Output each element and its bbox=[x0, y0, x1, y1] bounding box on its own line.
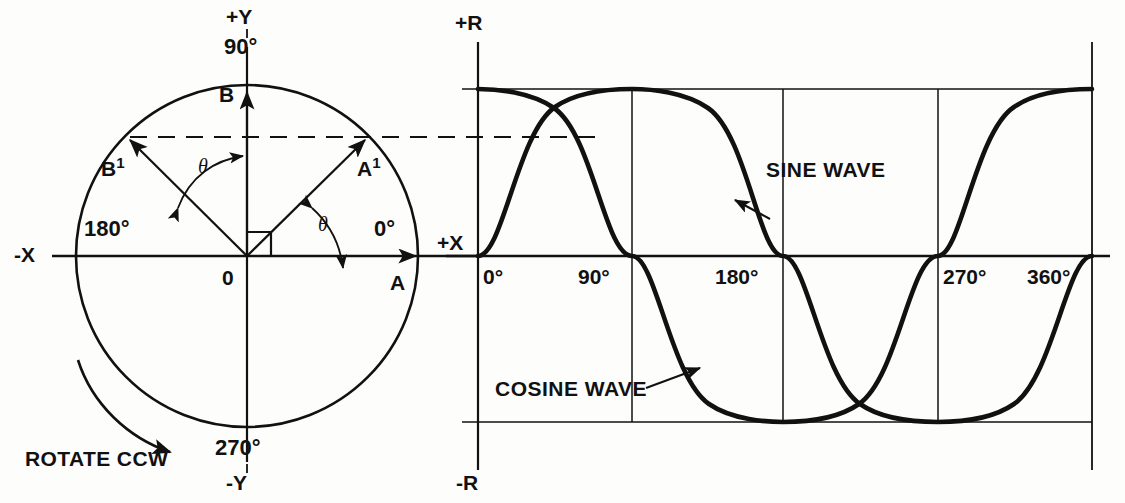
label-minus-y: -Y bbox=[226, 472, 247, 493]
label-rotate-ccw: ROTATE CCW bbox=[25, 448, 168, 469]
xtick-270: 270° bbox=[943, 266, 986, 287]
xtick-90: 90° bbox=[578, 266, 610, 287]
label-point-a-prime: A1 bbox=[357, 155, 381, 179]
circle-group bbox=[52, 29, 478, 473]
vector-b-prime bbox=[130, 140, 247, 256]
label-plus-y: +Y bbox=[226, 6, 252, 27]
label-plus-r: +R bbox=[455, 12, 482, 33]
vector-a-prime bbox=[247, 140, 365, 256]
theta-symbol-right: θ bbox=[318, 213, 328, 236]
theta-arc-left bbox=[178, 156, 243, 208]
label-point-b: B bbox=[219, 84, 234, 105]
label-sine-wave: SINE WAVE bbox=[766, 159, 886, 180]
xtick-180: 180° bbox=[715, 266, 758, 287]
label-90-deg: 90° bbox=[224, 36, 257, 58]
label-point-a: A bbox=[390, 272, 405, 293]
label-cosine-wave: COSINE WAVE bbox=[495, 378, 647, 399]
a-prime-base: A bbox=[357, 157, 372, 180]
label-180-deg: 180° bbox=[84, 218, 130, 240]
b-prime-superscript: 1 bbox=[116, 154, 124, 171]
label-point-b-prime: B1 bbox=[101, 155, 125, 179]
label-origin: 0 bbox=[222, 267, 234, 288]
xtick-360: 360° bbox=[1027, 266, 1070, 287]
b-prime-base: B bbox=[101, 157, 116, 180]
label-270-deg: 270° bbox=[215, 437, 261, 459]
theta-symbol-left: θ bbox=[198, 155, 208, 178]
xtick-0: 0° bbox=[483, 266, 503, 287]
label-plus-x-wave: +X bbox=[437, 232, 463, 253]
figure-root: +Y 90° B B1 A1 θ θ -X 180° 0° 0 A 270° -… bbox=[0, 0, 1125, 503]
diagram-canvas bbox=[0, 0, 1125, 503]
label-minus-r: -R bbox=[456, 472, 478, 493]
a-prime-superscript: 1 bbox=[372, 154, 380, 171]
label-0-deg-circle: 0° bbox=[374, 218, 395, 240]
label-minus-x: -X bbox=[14, 244, 35, 265]
